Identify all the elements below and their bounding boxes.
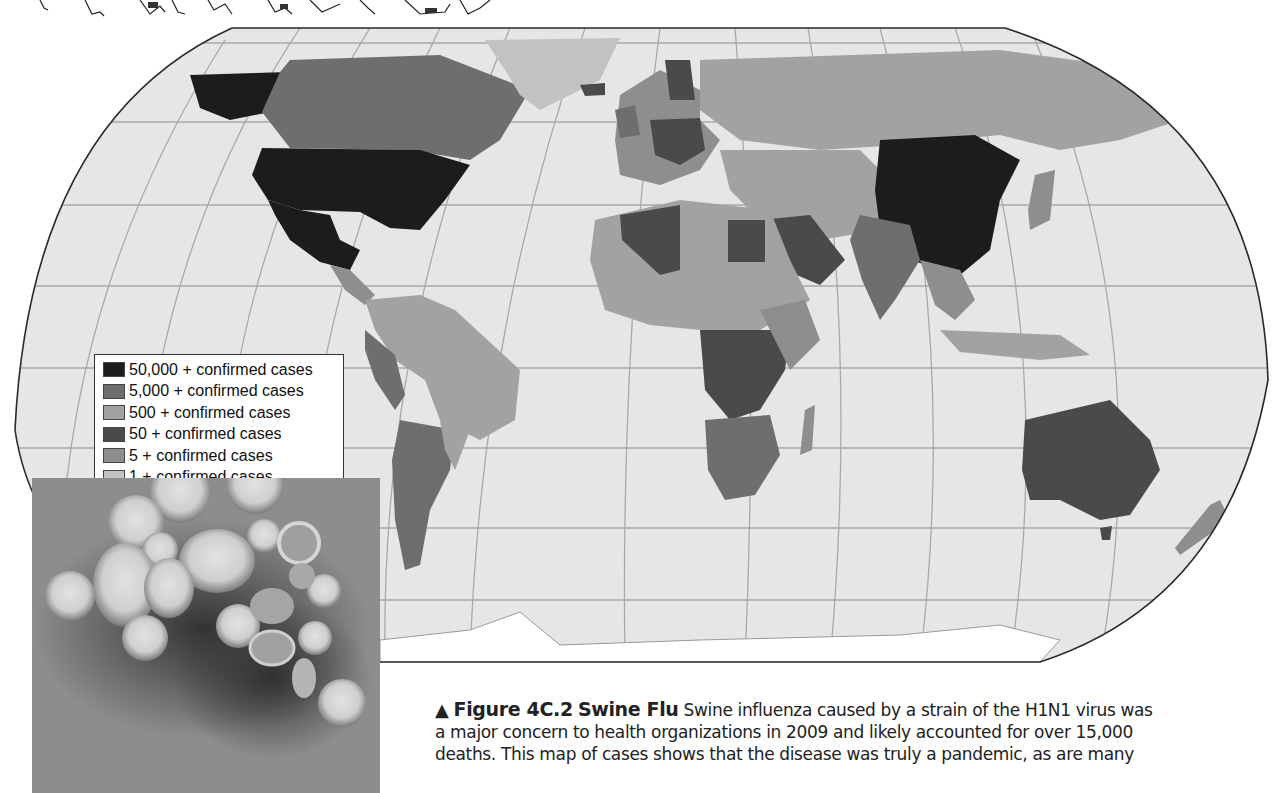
legend-label: 50 + confirmed cases: [129, 425, 282, 443]
legend-item: 500 + confirmed cases: [103, 402, 343, 424]
map-legend: 50,000 + confirmed cases 5,000 + confirm…: [94, 354, 344, 492]
legend-label: 5 + confirmed cases: [129, 447, 273, 465]
legend-label: 500 + confirmed cases: [129, 404, 290, 422]
legend-item: 50 + confirmed cases: [103, 424, 343, 446]
legend-item: 5,000 + confirmed cases: [103, 381, 343, 403]
figure-label: Figure 4C.2: [454, 698, 573, 720]
caption-line-1: ▲ Figure 4C.2 Swine Flu Swine influenza …: [435, 698, 1275, 721]
legend-item: 50,000 + confirmed cases: [103, 359, 343, 381]
legend-swatch-50: [103, 427, 125, 442]
figure-title: Swine Flu: [578, 698, 679, 720]
legend-swatch-500: [103, 405, 125, 420]
caption-line-3: deaths. This map of cases shows that the…: [435, 743, 1275, 765]
legend-swatch-50000: [103, 362, 125, 377]
caption-text: Swine influenza caused by a strain of th…: [684, 700, 1153, 720]
virus-micrograph-photo: [32, 478, 380, 793]
caption-line-2: a major concern to health organizations …: [435, 721, 1275, 743]
figure-caption: ▲ Figure 4C.2 Swine Flu Swine influenza …: [435, 698, 1275, 765]
legend-label: 50,000 + confirmed cases: [129, 361, 313, 379]
legend-item: 5 + confirmed cases: [103, 445, 343, 467]
legend-swatch-5000: [103, 384, 125, 399]
triangle-marker-icon: ▲: [435, 699, 449, 720]
legend-swatch-5: [103, 448, 125, 463]
legend-label: 5,000 + confirmed cases: [129, 382, 304, 400]
